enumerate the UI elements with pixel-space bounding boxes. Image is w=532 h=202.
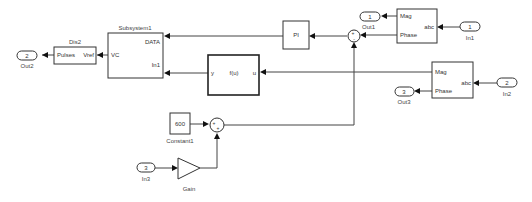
in1-port[interactable]: 1 In1 (460, 22, 480, 41)
sum2-plus-left: + (213, 120, 216, 126)
constant1-label: Constant1 (166, 138, 194, 144)
conv2-port-abc: abc (461, 80, 471, 86)
arrow-in1 (164, 70, 170, 76)
out1-port[interactable]: 1 (360, 12, 380, 21)
out2-label: Out2 (20, 63, 34, 69)
wire-gain-sum2 (200, 139, 217, 168)
subsystem1-port-in1: In1 (152, 62, 161, 68)
conv1-port-abc: abc (424, 24, 434, 30)
out3-label: Out3 (397, 99, 411, 105)
fcn-port-y: y (211, 70, 214, 76)
sum2-plus-bottom: + (217, 125, 220, 131)
in1-label: In1 (466, 35, 475, 41)
arrow-pi (309, 33, 315, 39)
in2-port[interactable]: 2 In2 (497, 78, 517, 97)
arrow-out2 (42, 52, 48, 58)
fcn-block[interactable]: y f(u) u (208, 55, 259, 95)
fcn-body: f(u) (230, 70, 239, 76)
dis2-block[interactable]: Dis2 Pulses Vref (54, 39, 96, 64)
gain-label: Gain (183, 186, 196, 192)
arrow-sum2-left (203, 121, 209, 127)
dis2-body: Pulses (57, 52, 75, 58)
arrow-sum1-right (360, 32, 366, 38)
arrow-data (164, 33, 170, 39)
arrow-abc2 (473, 80, 479, 86)
fcn-port-u: u (253, 70, 256, 76)
conv1-port-phase: Phase (400, 32, 418, 38)
in3-port[interactable]: 3 In3 (137, 163, 155, 182)
subsystem1-port-data: DATA (145, 39, 160, 45)
abc-to-magphase-block-2[interactable]: Mag Phase abc (432, 62, 473, 98)
conv1-port-mag: Mag (400, 13, 412, 19)
out3-port[interactable]: 3 Out3 (395, 87, 414, 105)
sum1-block[interactable]: + - Out1 (348, 24, 376, 42)
dis2-port-vref: Vref (83, 52, 94, 58)
constant1-value: 600 (175, 121, 186, 127)
arrow-sum2-bottom (214, 133, 220, 139)
pi-block[interactable]: PI (283, 21, 309, 49)
dis2-title: Dis2 (69, 39, 82, 45)
gain-block[interactable]: Gain (178, 158, 200, 192)
out2-port[interactable]: 2 Out2 (17, 51, 37, 69)
subsystem1-port-vc: VC (111, 52, 120, 58)
simulink-diagram: 2 Out2 Dis2 Pulses Vref Subsystem1 VC DA… (0, 0, 532, 202)
sum2-block[interactable]: + + (210, 118, 224, 132)
abc-to-magphase-block-1[interactable]: Mag Phase abc (397, 9, 437, 43)
sum1-label: Out1 (362, 24, 376, 30)
arrow-out3 (414, 88, 420, 94)
arrow-sum1-bottom (351, 42, 357, 48)
arrow-gain (172, 165, 178, 171)
arrow-fcn (260, 69, 266, 75)
arrow-abc1 (437, 24, 443, 30)
constant1-block[interactable]: 600 Constant1 (166, 113, 194, 144)
arrow-dis2 (97, 52, 103, 58)
arrow-out1 (381, 13, 387, 19)
conv2-port-mag: Mag (435, 69, 447, 75)
pi-label: PI (293, 32, 299, 38)
subsystem1-block[interactable]: Subsystem1 VC DATA In1 (108, 25, 163, 78)
in2-label: In2 (503, 91, 512, 97)
in3-label: In3 (142, 176, 151, 182)
gain-shape (178, 158, 200, 179)
conv2-port-phase: Phase (435, 88, 453, 94)
subsystem1-title: Subsystem1 (118, 25, 152, 31)
